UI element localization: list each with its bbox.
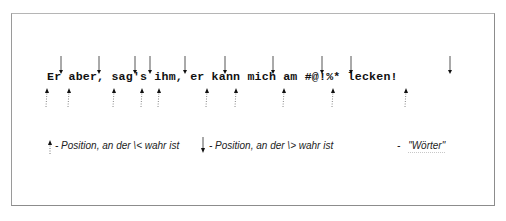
word-end-arrow [320,56,324,74]
word-start-arrow [67,88,71,107]
word-start-arrow [331,88,335,107]
word-start-arrow [234,88,238,107]
word-start-arrow [140,88,144,107]
word-start-arrow [282,88,286,107]
legend-solid-down-arrow-icon [201,137,205,153]
legend-words: - "Wörter" [397,140,445,151]
legend-end-label: - Position, an der \> wahr ist [209,140,333,151]
word-end-arrow [97,56,101,74]
word-end-arrow [223,56,227,74]
word-start-arrow [404,88,408,107]
word-end-arrow [183,56,187,74]
word-end-arrows [59,56,452,74]
word-start-arrows [45,88,408,107]
legend-words-dash: - [397,140,400,151]
word-start-arrow [112,88,116,107]
word-start-arrow [205,88,209,107]
legend-words-label: "Wörter" [408,140,445,153]
word-end-arrow [349,56,353,74]
word-end-arrow [59,56,63,74]
word-end-arrow [271,56,275,74]
word-end-arrow [148,56,152,74]
word-end-arrow [448,56,452,74]
word-boundary-arrows [0,0,506,221]
word-start-arrow [157,88,161,107]
word-end-arrow [133,56,137,74]
legend-start-label: - Position, an der \< wahr ist [55,140,179,151]
legend-dotted-up-arrow-icon [48,140,52,154]
word-start-arrow [45,88,49,107]
